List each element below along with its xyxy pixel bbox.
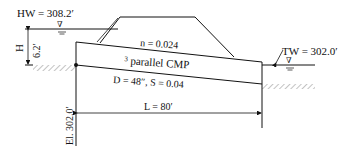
ground-right	[262, 84, 315, 89]
headwater-label: HW = 308.2′	[17, 7, 74, 19]
h-label: H	[13, 44, 25, 52]
water-symbol-hw: ∇	[57, 20, 63, 29]
elevation-label: El. 302.0′	[64, 106, 75, 145]
roughness-label: n = 0.024	[140, 37, 179, 51]
h-value: 6.2′	[31, 43, 42, 58]
hw-leader	[97, 18, 118, 42]
inlet-invert-point	[74, 63, 78, 67]
ground-left	[33, 65, 76, 71]
length-label: L = 80′	[144, 101, 173, 112]
embankment	[100, 17, 234, 57]
water-symbol-tw: ∇	[286, 56, 292, 65]
culvert-label: 3 parallel CMP	[124, 54, 190, 71]
culvert-diagram: HW = 308.2′ ∇ H 6.2′ TW = 302.0′ ∇ n = 0…	[0, 0, 353, 150]
dims-label: D = 48″, S = 0.04	[113, 74, 184, 90]
